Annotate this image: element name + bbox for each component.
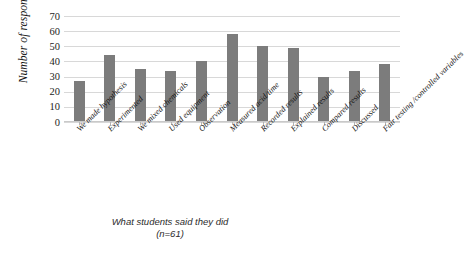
y-tick-label-50: 50	[40, 41, 60, 52]
y-tick-label-20: 20	[40, 86, 60, 97]
bar[interactable]	[74, 81, 85, 122]
y-tick-label-60: 60	[40, 26, 60, 37]
y-axis-title: Number of responses	[17, 0, 29, 89]
bar[interactable]	[288, 48, 299, 122]
bar[interactable]	[379, 64, 390, 122]
y-tick-label-0: 0	[40, 117, 60, 128]
y-axis-tick-labels: 706050403020100	[40, 10, 60, 128]
y-tick-label-30: 30	[40, 71, 60, 82]
bar[interactable]	[227, 34, 238, 122]
y-tick-label-70: 70	[40, 11, 60, 22]
y-tick-label-40: 40	[40, 56, 60, 67]
bar[interactable]	[257, 46, 268, 122]
caption-line-1: What students said they did	[112, 216, 229, 227]
chart-caption: What students said they did (n=61)	[0, 216, 340, 240]
caption-line-2: (n=61)	[0, 228, 340, 240]
y-tick-label-10: 10	[40, 101, 60, 112]
